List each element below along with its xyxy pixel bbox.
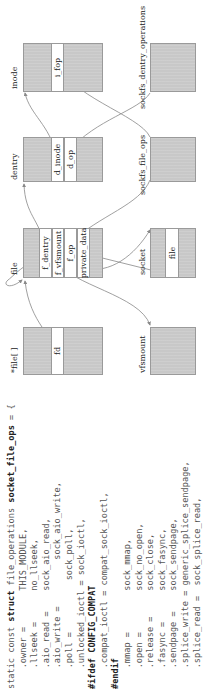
field-f-dentry: f_dentry [39,229,52,277]
field-d-op: d_op [64,138,77,181]
socket-label: socket [138,249,147,275]
sockfs-file-ops-box [150,137,196,182]
field-fd: fd [51,328,64,374]
rotated-page: static const struct file_operations sock… [0,0,205,695]
file-array-box: fd [23,327,103,375]
inode-label: inode [10,67,19,89]
file-label: file [10,262,19,275]
socket-box: file [150,228,196,278]
dentry-label: dentry [10,153,19,180]
field-i-fop: i_fop [51,44,64,91]
vfsmount-box [150,327,196,375]
sockfs-dentry-operations-label: sockfs_dentry_operations [138,6,147,109]
field-d-inode: d_inode [51,138,64,181]
sockfs-dentry-operations-box [150,43,196,92]
sockfs-file-ops-label: sockfs_file_ops [138,135,147,195]
file-array-label: *file[ ] [10,348,19,373]
field-private-data: private_data [77,229,90,277]
dentry-box: d_inode d_op [23,137,103,182]
vfsmount-label: vfsmount [138,335,147,373]
inode-box: i_fop [23,43,103,92]
field-f-op: f_op [64,229,77,277]
field-f-vfsmount: f_vfsmount [52,229,64,277]
field-socket-file: file [165,229,179,277]
file-box: f_dentry f_vfsmount f_op private_data [23,228,103,278]
